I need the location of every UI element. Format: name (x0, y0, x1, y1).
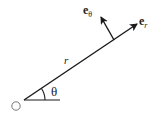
origin-point (12, 102, 20, 110)
polar-diagram: r θ er eθ (0, 0, 157, 118)
radius-line (24, 24, 137, 100)
e-theta-arrow (101, 17, 114, 40)
e-theta-label: eθ (83, 3, 92, 19)
angle-label: θ (51, 84, 57, 99)
e-r-label: er (139, 14, 148, 30)
angle-arc (42, 89, 46, 101)
radius-label: r (64, 54, 69, 66)
